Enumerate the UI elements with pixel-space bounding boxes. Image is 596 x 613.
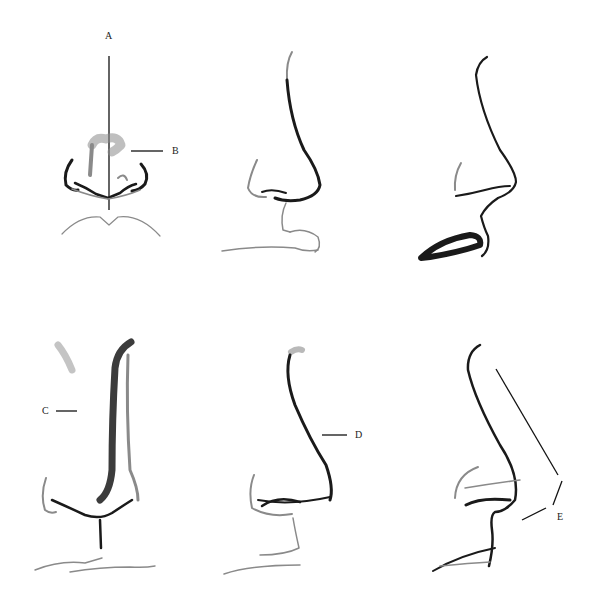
nose-drawings-canvas <box>0 0 596 613</box>
label-e-leader-line-base <box>522 508 546 520</box>
nose-profile-view-labeled <box>433 345 562 571</box>
label-a: A <box>105 30 112 41</box>
nose-three-quarter-view <box>222 52 320 252</box>
label-e-leader-line-bridge <box>496 369 558 475</box>
label-c: C <box>42 405 49 416</box>
label-d: D <box>355 429 362 440</box>
nose-profile-view <box>421 57 516 258</box>
nose-three-quarter-view-labeled <box>224 349 347 574</box>
label-e-leader-line-tip <box>553 481 562 505</box>
nose-front-three-quarter-view <box>35 342 155 572</box>
label-b: B <box>172 145 179 156</box>
nose-front-view <box>62 56 163 236</box>
label-e: E <box>557 511 563 522</box>
